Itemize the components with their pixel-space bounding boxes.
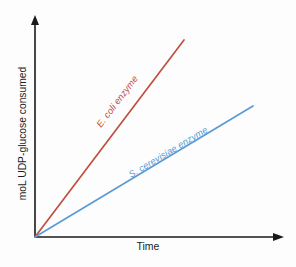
series-label-ecoli-enzyme: E. coli enzyme bbox=[95, 74, 140, 129]
chart-plot-area: E. coli enzyme S. cerevisiae enzyme bbox=[0, 0, 296, 267]
y-axis-title: moL UDP-glucose consumed bbox=[18, 67, 29, 201]
y-axis-title-wrapper: moL UDP-glucose consumed bbox=[10, 0, 36, 267]
series-line-ecoli-enzyme bbox=[35, 40, 184, 237]
series-label-scerevisiae-enzyme: S. cerevisiae enzyme bbox=[127, 125, 210, 180]
chart-figure: E. coli enzyme S. cerevisiae enzyme Time… bbox=[0, 0, 296, 267]
x-axis-title: Time bbox=[0, 240, 296, 252]
